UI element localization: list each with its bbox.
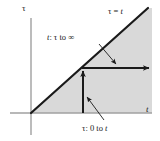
y-axis-label: τ — [22, 4, 26, 13]
x-axis-label: t — [146, 105, 149, 114]
diagonal-label-t: t — [120, 6, 122, 16]
lower-annotation-label: τ: 0 to t — [82, 124, 107, 133]
upper-annotation-label: t: τ to ∞ — [47, 33, 74, 42]
figure-container: τ t τ = t t: τ to ∞ τ: 0 to t — [0, 0, 160, 141]
lower-annotation-end: t — [105, 123, 107, 133]
lower-annotation-rest: : 0 to — [85, 123, 105, 133]
figure-canvas — [0, 0, 160, 141]
upper-annotation-rest: : τ to ∞ — [49, 32, 74, 42]
diagonal-line-label: τ = t — [108, 7, 123, 16]
